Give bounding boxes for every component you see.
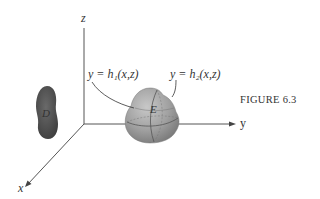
leader-h2	[172, 80, 176, 97]
z-axis-label: z	[81, 12, 86, 24]
leader-h1	[92, 82, 134, 108]
figure-6-3: z y x D E y = h₁(x,z) y = h₂(x,z) FIGURE…	[0, 0, 320, 199]
y-axis-label: y	[240, 117, 246, 129]
surface-h2-label: y = h₂(x,z)	[170, 68, 221, 80]
region-d-label: D	[42, 107, 50, 119]
solid-e	[125, 88, 179, 143]
surface-h1-label: y = h₁(x,z)	[88, 68, 139, 80]
x-axis-label: x	[18, 182, 23, 194]
solid-e-label: E	[150, 103, 157, 115]
figure-caption: FIGURE 6.3	[240, 94, 297, 105]
